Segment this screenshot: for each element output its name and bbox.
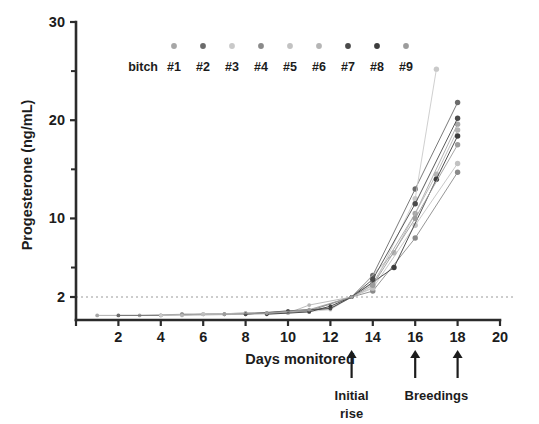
data-point [307, 308, 311, 312]
legend-label-bitch-3: #3 [225, 60, 239, 74]
legend-dot-bitch-6 [316, 43, 322, 49]
legend-dot-bitch-7 [345, 43, 351, 49]
up-arrow-head-day-18 [453, 350, 463, 358]
x-tick-label-2: 2 [114, 329, 122, 345]
data-point [455, 100, 460, 105]
legend: bitch #1#2#3#4#5#6#7#8#9 [128, 43, 413, 74]
series-bitch-5 [201, 161, 460, 316]
chart-figure: 2102030 2468101214161820 Progesterone (n… [0, 0, 539, 424]
x-tick-label-14: 14 [365, 329, 381, 345]
legend-dot-bitch-5 [287, 43, 293, 49]
breedings-label: Breedings [405, 388, 469, 403]
x-tick-label-12: 12 [322, 329, 338, 345]
series-line [246, 118, 458, 314]
data-point [265, 311, 269, 315]
series-line [182, 130, 458, 315]
legend-dot-bitch-1 [171, 43, 177, 49]
series-line [97, 124, 457, 315]
data-point [117, 314, 121, 318]
series-bitch-9 [223, 142, 461, 316]
x-tick-label-10: 10 [280, 329, 296, 345]
data-point [329, 304, 333, 308]
legend-title: bitch [128, 60, 158, 74]
legend-label-bitch-8: #8 [370, 60, 384, 74]
x-tick-label-16: 16 [407, 329, 423, 345]
data-point [455, 161, 460, 166]
x-tick-label-20: 20 [492, 329, 508, 345]
data-point [413, 216, 418, 221]
data-point [455, 127, 460, 132]
series-line [203, 163, 457, 314]
y-tick-label-10: 10 [49, 210, 65, 226]
x-tick-label-8: 8 [242, 329, 250, 345]
legend-label-bitch-5: #5 [283, 60, 297, 74]
data-point [455, 133, 460, 138]
data-point [286, 309, 290, 313]
series-bitch-8 [265, 133, 460, 316]
legend-label-bitch-2: #2 [196, 60, 210, 74]
initial-rise-label-line2: rise [340, 406, 363, 421]
data-point [95, 314, 99, 318]
data-point [307, 303, 311, 307]
data-point [350, 295, 354, 299]
series-bitch-4 [180, 170, 460, 317]
up-arrow-head-day-16 [410, 350, 420, 358]
series-bitch-7 [244, 116, 461, 317]
legend-label-bitch-7: #7 [341, 60, 355, 74]
legend-dot-bitch-2 [200, 43, 206, 49]
legend-dot-bitch-8 [374, 43, 380, 49]
series-bitch-3 [159, 66, 439, 317]
legend-dot-bitch-4 [258, 43, 264, 49]
legend-dot-bitch-9 [403, 43, 409, 49]
legend-label-bitch-1: #1 [167, 60, 181, 74]
data-point [413, 235, 418, 240]
data-point [159, 314, 163, 318]
y-axis-tick-labels: 2102030 [49, 14, 65, 305]
data-point [434, 66, 439, 71]
data-point [455, 170, 460, 175]
data-point [370, 283, 375, 288]
y-axis-title: Progesterone (ng/mL) [19, 100, 35, 251]
legend-label-bitch-9: #9 [399, 60, 413, 74]
x-tick-label-18: 18 [450, 329, 466, 345]
data-point [180, 314, 184, 318]
progesterone-line-chart: 2102030 2468101214161820 Progesterone (n… [0, 0, 539, 424]
legend-label-bitch-4: #4 [254, 60, 268, 74]
x-axis-tick-labels: 2468101214161820 [114, 329, 508, 345]
data-point [223, 312, 227, 316]
series-line [161, 69, 437, 315]
series-bitch-6 [180, 127, 460, 317]
x-tick-label-6: 6 [199, 329, 207, 345]
data-point [455, 116, 460, 121]
data-point [391, 265, 396, 270]
x-tick-label-4: 4 [157, 329, 165, 345]
series-layer [95, 66, 460, 317]
data-point [413, 201, 418, 206]
y-tick-label-20: 20 [49, 112, 65, 128]
y-tick-label-2: 2 [57, 289, 65, 305]
data-point [201, 312, 205, 316]
data-point [244, 312, 248, 316]
initial-rise-label-line1: Initial [335, 388, 369, 403]
series-bitch-2 [117, 100, 461, 317]
data-point [455, 142, 460, 147]
series-line [224, 145, 457, 314]
series-line [267, 136, 458, 314]
y-tick-label-30: 30 [49, 14, 65, 30]
legend-label-bitch-6: #6 [312, 60, 326, 74]
series-line [118, 103, 457, 316]
annotation-arrows [347, 350, 463, 378]
legend-dot-bitch-3 [229, 43, 235, 49]
x-axis-title: Days monitored [245, 351, 355, 367]
